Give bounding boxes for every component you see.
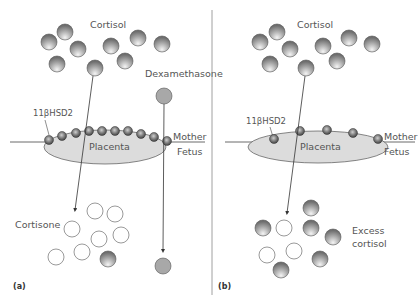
enzyme-molecule bbox=[58, 132, 67, 141]
cortisone-molecule bbox=[286, 243, 302, 259]
panel-label-b: (b) bbox=[218, 282, 231, 291]
enzyme-molecule bbox=[124, 127, 133, 136]
panel-a: Cortisol Dexamethasone Placenta Mother F… bbox=[10, 19, 223, 291]
cortisone-molecule bbox=[113, 227, 129, 243]
panel-label-a: (a) bbox=[13, 282, 26, 291]
dexamethasone-molecule bbox=[156, 88, 172, 104]
cortisone-molecule bbox=[107, 206, 123, 222]
dexamethasone-label: Dexamethasone bbox=[145, 68, 223, 79]
cortisol-molecule bbox=[87, 60, 103, 76]
dexamethasone-molecule-fetal bbox=[155, 258, 171, 274]
enzyme-molecule bbox=[98, 127, 107, 136]
cortisol-molecule bbox=[130, 30, 146, 46]
cortisol-molecule bbox=[341, 30, 357, 46]
cortisol-label-a: Cortisol bbox=[90, 19, 126, 30]
cortisone-molecule bbox=[91, 231, 107, 247]
cortisone-label: Cortisone bbox=[15, 219, 60, 230]
placenta-cortisol-diagram: Cortisol Dexamethasone Placenta Mother F… bbox=[0, 0, 420, 300]
enzyme-molecule bbox=[349, 129, 358, 138]
cortisone-molecule bbox=[48, 249, 64, 265]
placenta-label-a: Placenta bbox=[89, 141, 130, 152]
cortisol-molecule bbox=[255, 220, 271, 236]
cortisol-label-b: Cortisol bbox=[297, 19, 333, 30]
cortisol-molecule bbox=[262, 56, 278, 72]
enzyme-molecule bbox=[150, 133, 159, 142]
cortisol-molecule bbox=[325, 229, 341, 245]
cortisol-molecule bbox=[298, 60, 314, 76]
enzyme-leader-a bbox=[45, 120, 49, 135]
dexamethasone-path-arrow bbox=[163, 104, 164, 251]
enzyme-molecule bbox=[374, 135, 383, 144]
enzyme-label-b: 11βHSD2 bbox=[246, 116, 286, 126]
cortisol-molecule bbox=[103, 38, 119, 54]
cortisol-molecule bbox=[57, 24, 73, 40]
cortisol-molecule bbox=[303, 220, 319, 236]
mother-label-a: Mother bbox=[173, 131, 207, 142]
enzyme-molecule bbox=[296, 127, 305, 136]
cortisol-molecule bbox=[364, 36, 380, 52]
enzyme-molecule bbox=[72, 129, 81, 138]
cortisol-molecule bbox=[41, 34, 57, 50]
fetal-molecules-b bbox=[255, 200, 341, 278]
cortisone-molecule bbox=[74, 244, 90, 260]
excess-cortisol-label-line1: Excess bbox=[352, 225, 384, 236]
fetus-label-b: Fetus bbox=[384, 146, 410, 157]
maternal-cortisol-molecules-b bbox=[252, 24, 380, 76]
enzyme-molecule bbox=[323, 126, 332, 135]
cortisol-molecule bbox=[49, 56, 65, 72]
cortisone-molecule bbox=[259, 247, 275, 263]
enzyme-molecule bbox=[270, 135, 279, 144]
enzyme-molecule bbox=[111, 127, 120, 136]
cortisol-molecule bbox=[70, 41, 86, 57]
placenta-label-b: Placenta bbox=[300, 141, 341, 152]
enzyme-molecule bbox=[137, 130, 146, 139]
cortisol-molecule bbox=[100, 251, 116, 267]
cortisol-molecule bbox=[282, 41, 298, 57]
cortisol-molecule bbox=[117, 53, 133, 69]
enzyme-molecule bbox=[45, 136, 54, 145]
excess-cortisol-label-line2: cortisol bbox=[352, 238, 387, 249]
cortisol-molecule bbox=[154, 36, 170, 52]
cortisol-molecule bbox=[273, 262, 289, 278]
cortisol-molecule bbox=[269, 24, 285, 40]
cortisol-molecule bbox=[315, 38, 331, 54]
cortisone-molecule bbox=[276, 220, 292, 236]
cortisone-molecule bbox=[87, 203, 103, 219]
cortisone-molecule bbox=[64, 221, 80, 237]
cortisol-molecule bbox=[329, 53, 345, 69]
mother-label-b: Mother bbox=[384, 131, 418, 142]
fetus-label-a: Fetus bbox=[177, 146, 203, 157]
panel-b: Cortisol Placenta Mother Fetus 11βHSD2 bbox=[218, 19, 418, 291]
cortisol-molecule bbox=[303, 200, 319, 216]
cortisol-molecule bbox=[252, 34, 268, 50]
fetal-molecules-a bbox=[48, 203, 129, 267]
enzyme-label-a: 11βHSD2 bbox=[33, 108, 73, 118]
cortisol-molecule bbox=[312, 251, 328, 267]
